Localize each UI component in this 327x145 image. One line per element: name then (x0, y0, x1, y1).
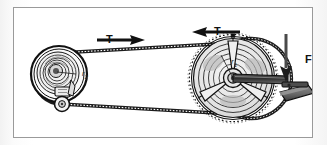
cog-radius-label: r2 (82, 70, 88, 80)
chainring-radius-label: r1 (231, 58, 237, 68)
rear-cassette-cog (31, 46, 87, 102)
tension-label-right: T (214, 26, 221, 37)
drivetrain-diagram (14, 8, 312, 137)
pedal (280, 82, 312, 101)
tension-arrow-left (97, 35, 145, 45)
tension-label-left: T (106, 34, 113, 45)
force-label: F (305, 54, 312, 65)
cog-radius-subscript: 2 (85, 74, 88, 80)
derailleur-jockey-wheel (55, 97, 70, 112)
figure-frame: T T F r1 r2 (13, 7, 313, 138)
chainring-radius-subscript: 1 (234, 62, 237, 68)
crank-arm (233, 74, 288, 84)
figure-page: T T F r1 r2 (0, 0, 327, 145)
